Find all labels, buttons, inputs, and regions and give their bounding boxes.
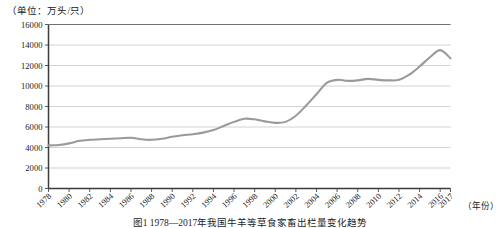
y-tick-label: 14000	[21, 40, 42, 50]
x-tick-label: 1998	[241, 192, 259, 210]
x-axis-title: （年份）	[463, 200, 499, 211]
x-tick-label: 2000	[262, 192, 280, 210]
x-tick-label: 1994	[200, 191, 219, 209]
x-tick-label: 1986	[117, 192, 135, 210]
x-tick-label: 1992	[179, 192, 197, 210]
x-tick-label: 1988	[138, 192, 156, 210]
x-tick-label-group: 1978198019821984198619881990199219941996…	[35, 191, 455, 209]
plot-area-wrapper: 0200040006000800010000120001400016000 19…	[0, 0, 500, 228]
x-tick-label: 1996	[220, 192, 238, 210]
line-chart-plot: 0200040006000800010000120001400016000 19…	[0, 0, 500, 228]
x-tick-label: 2010	[365, 192, 383, 210]
data-series-group	[49, 50, 451, 145]
x-tick-label: 1978	[35, 192, 53, 210]
y-tick-label: 10000	[21, 81, 42, 91]
x-tick-label: 2008	[344, 192, 362, 210]
y-tick-label-group: 0200040006000800010000120001400016000	[21, 20, 42, 194]
x-tick-label: 2006	[323, 192, 341, 210]
y-tick-label: 2000	[25, 163, 42, 173]
x-tick-label: 2002	[282, 192, 300, 210]
x-axis-title-group: （年份）	[463, 200, 499, 211]
x-tick-label: 1980	[55, 192, 73, 210]
chart-figure: （单位：万头/只） 020004000600080001000012000140…	[0, 0, 500, 228]
x-tick-label: 2004	[303, 191, 322, 209]
x-tick-label: 1982	[76, 192, 94, 210]
data-line	[49, 50, 451, 145]
y-tick-label: 8000	[25, 102, 42, 112]
y-tick-label: 6000	[25, 122, 42, 132]
x-tick-label: 1990	[158, 192, 176, 210]
x-tick-label: 1984	[97, 191, 116, 209]
y-tick-label: 0	[38, 184, 42, 194]
y-tick-label: 4000	[25, 143, 42, 153]
figure-caption: 图1 1978—2017年我国牛羊等草食家畜出栏量变化趋势	[0, 217, 500, 228]
x-tick-label: 2012	[385, 192, 403, 210]
y-tick-label: 16000	[21, 20, 42, 30]
gridline-group	[49, 25, 451, 169]
y-tick-label: 12000	[21, 61, 42, 71]
x-tick-label: 2014	[406, 191, 425, 209]
